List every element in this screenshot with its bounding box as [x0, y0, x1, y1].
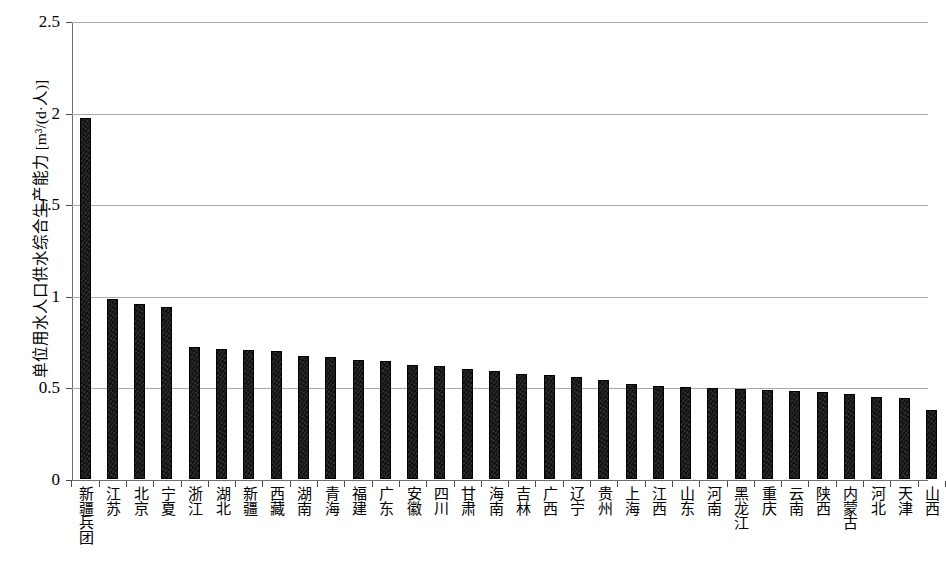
- y-axis-title-text: 单位用水人口供水综合生产能力 [m³/(d·人)]: [32, 80, 49, 378]
- y-tick-mark: [66, 297, 72, 298]
- x-tick-mark: [99, 481, 100, 487]
- x-tick-mark: [399, 481, 400, 487]
- category-label: 四川: [432, 486, 447, 515]
- bar: [899, 398, 910, 479]
- x-tick-mark: [181, 481, 182, 487]
- y-tick-mark: [66, 114, 72, 115]
- bar: [407, 365, 418, 479]
- x-tick-mark: [317, 481, 318, 487]
- x-tick-mark: [126, 481, 127, 487]
- x-tick-mark: [508, 481, 509, 487]
- category-label: 甘肃: [460, 486, 475, 515]
- y-tick-mark: [66, 205, 72, 206]
- category-label: 安徽: [405, 486, 420, 515]
- bar: [380, 361, 391, 479]
- gridline: [72, 205, 928, 206]
- category-label: 河北: [869, 486, 884, 515]
- y-tick-label: 2: [0, 105, 60, 122]
- x-tick-mark: [372, 481, 373, 487]
- bar: [871, 397, 882, 479]
- y-tick-label: 0.5: [0, 379, 60, 396]
- bar: [516, 374, 527, 479]
- category-label: 上海: [624, 486, 639, 515]
- category-label: 海南: [487, 486, 502, 515]
- category-label: 陕西: [815, 486, 830, 515]
- category-label: 江苏: [105, 486, 120, 515]
- bar: [134, 304, 145, 479]
- category-label: 内蒙古: [842, 486, 857, 530]
- category-label: 新疆: [241, 486, 256, 515]
- category-label: 吉林: [514, 486, 529, 515]
- y-tick-mark: [66, 388, 72, 389]
- y-tick-label: 0: [0, 471, 60, 488]
- category-label: 北京: [132, 486, 147, 515]
- x-tick-mark: [71, 481, 72, 487]
- category-label: 广西: [542, 486, 557, 515]
- category-label: 云南: [787, 486, 802, 515]
- x-tick-mark: [153, 481, 154, 487]
- category-label: 福建: [351, 486, 366, 515]
- x-tick-mark: [535, 481, 536, 487]
- x-tick-mark: [836, 481, 837, 487]
- category-label: 西藏: [269, 486, 284, 515]
- gridline: [72, 388, 928, 389]
- bar: [544, 375, 555, 479]
- bar: [598, 380, 609, 479]
- bar: [271, 351, 282, 479]
- category-label: 浙江: [187, 486, 202, 515]
- x-tick-mark: [863, 481, 864, 487]
- x-tick-mark: [918, 481, 919, 487]
- bar: [626, 384, 637, 479]
- bar: [243, 350, 254, 479]
- bar: [462, 369, 473, 479]
- category-label: 天津: [897, 486, 912, 515]
- bar: [161, 307, 172, 479]
- bar: [844, 394, 855, 479]
- bar: [325, 357, 336, 479]
- x-tick-mark: [426, 481, 427, 487]
- category-label: 宁夏: [159, 486, 174, 515]
- category-label: 江西: [651, 486, 666, 515]
- bar: [680, 387, 691, 479]
- bar: [298, 356, 309, 479]
- bar: [789, 391, 800, 479]
- category-label: 广东: [378, 486, 393, 515]
- x-tick-mark: [590, 481, 591, 487]
- x-tick-mark: [454, 481, 455, 487]
- bar: [735, 389, 746, 479]
- x-tick-mark: [781, 481, 782, 487]
- bar: [216, 349, 227, 479]
- x-tick-mark: [344, 481, 345, 487]
- y-tick-mark: [66, 22, 72, 23]
- bar: [762, 390, 773, 479]
- category-label: 山西: [924, 486, 939, 515]
- category-label: 湖南: [296, 486, 311, 515]
- category-label: 黑龙江: [733, 486, 748, 530]
- x-tick-mark: [727, 481, 728, 487]
- x-tick-mark: [481, 481, 482, 487]
- x-tick-mark: [235, 481, 236, 487]
- x-tick-mark: [262, 481, 263, 487]
- category-label: 河南: [705, 486, 720, 515]
- bar: [80, 118, 91, 479]
- x-tick-mark: [754, 481, 755, 487]
- y-tick-label: 2.5: [0, 13, 60, 30]
- y-tick-label: 1.5: [0, 196, 60, 213]
- x-tick-mark: [290, 481, 291, 487]
- y-tick-label: 1: [0, 288, 60, 305]
- y-axis-line: [72, 22, 73, 481]
- x-tick-mark: [617, 481, 618, 487]
- bar: [489, 371, 500, 479]
- bar: [189, 347, 200, 479]
- gridline: [72, 22, 928, 23]
- bar: [707, 388, 718, 479]
- x-tick-mark: [890, 481, 891, 487]
- bar: [107, 299, 118, 479]
- x-tick-mark: [645, 481, 646, 487]
- category-label: 山东: [678, 486, 693, 515]
- x-axis-line: [72, 480, 928, 481]
- category-label: 湖北: [214, 486, 229, 515]
- x-tick-mark: [208, 481, 209, 487]
- category-label: 新疆兵团: [78, 486, 93, 544]
